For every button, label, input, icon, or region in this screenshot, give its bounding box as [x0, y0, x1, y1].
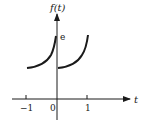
- x-axis-label: t: [134, 94, 139, 105]
- curve-left-period: [27, 36, 56, 68]
- tick-label-1: 1: [85, 103, 91, 113]
- tick-label-0: 0: [50, 103, 56, 113]
- tick-label-minus-1: −1: [20, 103, 33, 113]
- value-label-e: e: [60, 32, 65, 42]
- function-plot: f(t) t e −1 0 1: [0, 0, 146, 124]
- y-axis-label: f(t): [49, 2, 66, 13]
